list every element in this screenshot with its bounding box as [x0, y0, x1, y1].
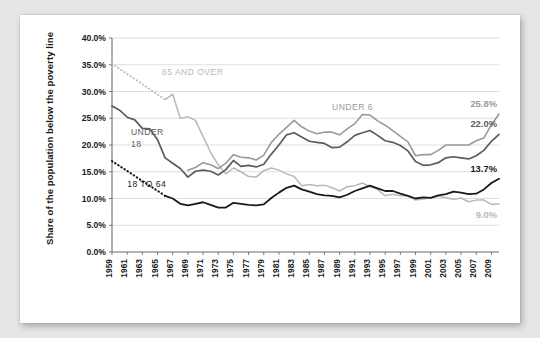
series-annotations-group: 65 AND OVERUNDER 6UNDER1818 TO 64: [127, 67, 373, 188]
x-tick-label: 1991: [347, 259, 357, 278]
end-value-label-under-18: 22.0%: [470, 118, 497, 129]
x-tick-label: 1959: [104, 259, 114, 278]
plot-area: 0.0%5.0%10.0%15.0%20.0%25.0%30.0%35.0%40…: [72, 28, 507, 310]
x-tick-label: 1993: [362, 259, 372, 278]
y-tick-label: 35.0%: [82, 60, 107, 70]
end-value-label-18-to-64: 13.7%: [470, 163, 497, 174]
series-annotation-65-and-over: 65 AND OVER: [162, 67, 223, 77]
x-tick-label: 1985: [301, 259, 311, 278]
x-tick-label: 2005: [453, 259, 463, 278]
y-tick-label: 30.0%: [82, 87, 107, 97]
x-tick-label: 1995: [377, 259, 387, 278]
y-axis-label: Share of the population below the povert…: [44, 24, 55, 254]
x-tick-label: 1979: [256, 259, 266, 278]
y-tick-labels-group: 0.0%5.0%10.0%15.0%20.0%25.0%30.0%35.0%40…: [82, 33, 107, 257]
y-tick-label: 40.0%: [82, 33, 107, 43]
x-tick-label: 1983: [286, 259, 296, 278]
x-tick-label: 1999: [408, 259, 418, 278]
series-dotted-65-and-over: [112, 64, 165, 100]
x-tick-label: 2001: [423, 259, 433, 278]
x-tick-label: 1965: [150, 259, 160, 278]
chart-card: Share of the population below the povert…: [20, 15, 520, 323]
x-tick-label: 1969: [180, 259, 190, 278]
x-tick-label: 1961: [119, 259, 129, 278]
x-tick-label: 1967: [165, 259, 175, 278]
series-end-value-labels-group: 9.0%25.8%22.0%13.7%: [470, 98, 497, 220]
x-tick-label: 2003: [438, 259, 448, 278]
x-tick-label: 1971: [195, 259, 205, 278]
x-tick-label: 2007: [468, 259, 478, 278]
y-tick-label: 5.0%: [86, 220, 106, 230]
end-value-label-under-6: 25.8%: [470, 98, 497, 109]
series-annotation-under-18: 18: [131, 139, 141, 149]
end-value-label-65-and-over: 9.0%: [476, 209, 498, 220]
x-tick-label: 1975: [225, 259, 235, 278]
y-tick-label: 10.0%: [82, 194, 107, 204]
y-tick-label: 25.0%: [82, 113, 107, 123]
x-tick-label: 1987: [316, 259, 326, 278]
x-tick-label: 1977: [241, 259, 251, 278]
series-annotation-under-6: UNDER 6: [332, 102, 373, 112]
series-line-18-to-64: [165, 179, 499, 208]
x-tick-label: 1963: [134, 259, 144, 278]
x-tick-labels-group: 1959196119631965196719691971197319751977…: [104, 259, 493, 278]
series-annotation-under-18: UNDER: [131, 127, 164, 137]
y-tick-label: 15.0%: [82, 167, 107, 177]
y-tick-label: 0.0%: [86, 247, 106, 257]
x-tick-label: 1997: [392, 259, 402, 278]
x-tick-label: 1973: [210, 259, 220, 278]
series-lines-group: [112, 64, 499, 208]
x-tick-label: 1989: [332, 259, 342, 278]
poverty-rate-line-chart: 0.0%5.0%10.0%15.0%20.0%25.0%30.0%35.0%40…: [72, 28, 507, 310]
y-tick-label: 20.0%: [82, 140, 107, 150]
series-annotation-18-to-64: 18 TO 64: [127, 179, 166, 189]
page-root: Share of the population below the povert…: [0, 0, 540, 338]
x-tick-label: 2009: [483, 259, 493, 278]
series-line-under-18: [112, 106, 499, 177]
x-tick-label: 1981: [271, 259, 281, 278]
